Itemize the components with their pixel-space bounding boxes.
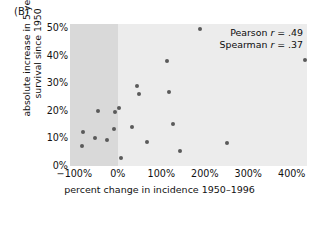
- spearman-annotation: Spearman r = .37: [220, 39, 304, 51]
- shaded-region-decreasing-incidence: [70, 24, 118, 166]
- x-axis-title: percent change in incidence 1950–1996: [0, 184, 319, 195]
- spearman-value: = .37: [274, 39, 303, 50]
- y-axis-tick-label: 40%: [34, 51, 68, 61]
- plot-area: Pearson r = .49 Spearman r = .37: [70, 24, 307, 166]
- scatter-point: [130, 125, 134, 129]
- scatter-point: [171, 122, 175, 126]
- pearson-label: Pearson: [230, 27, 270, 38]
- scatter-point: [303, 58, 307, 62]
- scatter-point: [178, 149, 182, 153]
- y-axis-tick-label: 30%: [34, 78, 68, 88]
- scatter-point: [135, 84, 139, 88]
- y-axis-tick-label: 50%: [34, 23, 68, 33]
- x-axis-tick-label: 0%: [110, 168, 125, 179]
- scatter-point: [198, 27, 202, 31]
- scatter-point: [117, 106, 121, 110]
- y-axis-tick-label: 10%: [34, 133, 68, 143]
- x-axis-tick-label: 400%: [278, 168, 305, 179]
- correlation-annotation: Pearson r = .49 Spearman r = .37: [220, 27, 304, 50]
- scatter-point: [167, 90, 171, 94]
- y-axis-title-line1: absolute increase in 5-year: [21, 0, 32, 133]
- scatter-point: [145, 140, 149, 144]
- x-axis-tick-label: −100%: [57, 168, 92, 179]
- scatter-point: [137, 92, 141, 96]
- scatter-point: [165, 59, 169, 63]
- figure-panel-b: (B) absolute increase in 5-year survival…: [0, 0, 319, 225]
- y-axis-tick-label: 20%: [34, 106, 68, 116]
- scatter-point: [119, 156, 123, 160]
- x-axis-tick-label: 200%: [191, 168, 218, 179]
- x-axis-tick-label: 300%: [235, 168, 262, 179]
- pearson-annotation: Pearson r = .49: [220, 27, 304, 39]
- x-axis-tick-labels: −100%0%100%200%300%400%: [70, 168, 307, 182]
- x-axis-tick-label: 100%: [148, 168, 175, 179]
- spearman-label: Spearman: [220, 39, 271, 50]
- pearson-value: = .49: [274, 27, 303, 38]
- scatter-point: [225, 141, 229, 145]
